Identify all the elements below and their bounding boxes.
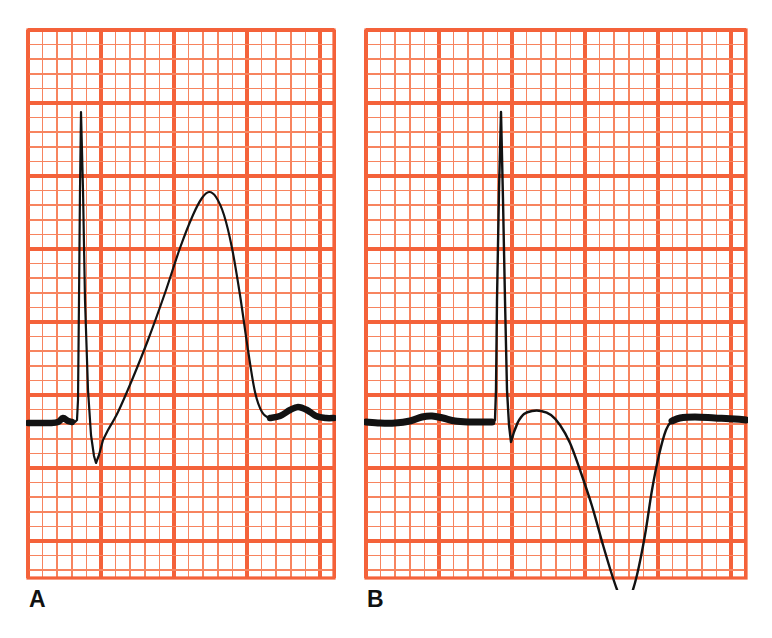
panel-label-a: A [29, 588, 46, 611]
ecg-figure: A B [0, 0, 772, 638]
ecg-panel-a-svg [0, 0, 772, 638]
ecg-grid-b [366, 30, 746, 578]
ecg-grid-a [28, 30, 335, 578]
ecg-trace-b-baseline-right [672, 417, 746, 421]
panel-label-b: B [367, 588, 384, 611]
